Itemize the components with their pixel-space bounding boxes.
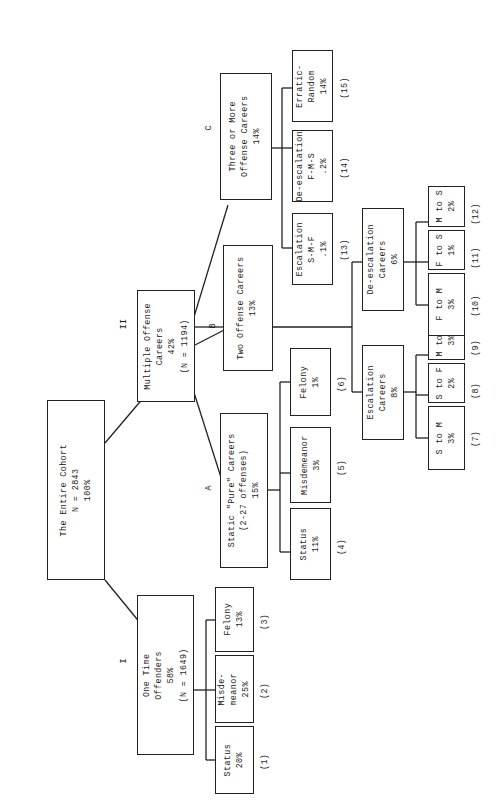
node-escalation-careers[interactable]: Escalation Careers 8%: [362, 345, 404, 440]
node-felony-6[interactable]: Felony 1%: [290, 348, 331, 416]
node-s-to-f-8-text: S to F 2%: [434, 367, 458, 400]
node-status-4-text: Status 11%: [298, 528, 322, 561]
node-f-to-s-11[interactable]: F to S 1%: [428, 230, 465, 270]
node-f-to-s-11-text: F to S 1%: [434, 234, 458, 267]
node-status-1-text: Status 20%: [222, 744, 246, 777]
node-s-to-m-7-text: S to M 3%: [434, 422, 458, 455]
node-three-or-more-offense-careers-text: Three or More Offense Careers 14%: [228, 96, 265, 177]
label-index-1: (1): [260, 752, 272, 772]
node-s-to-f-8[interactable]: S to F 2%: [428, 363, 465, 403]
node-felony-3[interactable]: Felony 13%: [215, 587, 254, 652]
label-index-11: (11): [471, 245, 483, 271]
diagram-canvas: The Entire Cohort N = 2843 100% One Time…: [0, 0, 496, 807]
node-one-time-offenders-text: One Time Offenders 58% (N = 1649): [141, 648, 190, 702]
label-branch-I: I: [119, 654, 131, 668]
label-index-4: (4): [337, 537, 349, 557]
label-branch-II: II: [119, 316, 131, 332]
node-two-offense-careers[interactable]: Two Offense Careers 13%: [223, 245, 273, 371]
node-multiple-offense-careers-text: Multiple Offense Careers 42% (N = 1194): [142, 303, 191, 390]
node-felony-3-text: Felony 13%: [222, 603, 246, 636]
label-index-8: (8): [471, 380, 483, 402]
node-root[interactable]: The Entire Cohort N = 2843 100%: [47, 400, 105, 580]
label-index-6: (6): [337, 374, 349, 394]
label-index-2: (2): [260, 681, 272, 701]
label-branch-B: B: [208, 319, 220, 333]
label-index-10: (10): [471, 293, 483, 319]
node-erratic-random-15[interactable]: Erratic- Random 14%: [292, 50, 333, 122]
node-root-text: The Entire Cohort N = 2843 100%: [58, 444, 95, 536]
node-m-to-s-12[interactable]: M to S 2%: [428, 186, 465, 227]
label-index-5: (5): [337, 458, 349, 478]
node-static-pure-careers[interactable]: Static "Pure" Careers (2-27 offenses) 15…: [220, 413, 268, 568]
node-erratic-random-15-text: Erratic- Random 14%: [294, 64, 331, 107]
node-misdemeanor-2-text: Misde- meanor 25%: [216, 673, 253, 706]
node-multiple-offense-careers[interactable]: Multiple Offense Careers 42% (N = 1194): [137, 290, 195, 402]
node-f-to-m-10-text: F to M 3%: [434, 288, 458, 321]
node-de-escalation-fms-14[interactable]: De-escalation F-M-S .2%: [292, 130, 333, 202]
label-index-9: (9): [471, 337, 483, 359]
label-index-7: (7): [471, 428, 483, 450]
node-two-offense-careers-text: Two Offense Careers 13%: [236, 256, 260, 359]
node-misdemeanor-5[interactable]: Misdemeanor 3%: [290, 427, 331, 503]
label-index-13: (13): [340, 238, 352, 262]
node-escalation-careers-text: Escalation Careers 8%: [365, 365, 402, 419]
node-three-or-more-offense-careers[interactable]: Three or More Offense Careers 14%: [220, 73, 272, 200]
node-escalation-smf-13-text: Escalation S-M-F .1%: [294, 222, 331, 276]
node-escalation-smf-13[interactable]: Escalation S-M-F .1%: [292, 213, 333, 285]
label-index-12: (12): [471, 201, 483, 227]
node-misdemeanor-2[interactable]: Misde- meanor 25%: [215, 655, 254, 723]
node-s-to-m-7[interactable]: S to M 3%: [428, 406, 465, 470]
node-felony-6-text: Felony 1%: [298, 366, 322, 399]
node-de-escalation-careers-text: De-escalation Careers 6%: [365, 224, 402, 295]
label-index-15: (15): [340, 76, 352, 100]
label-branch-C: C: [204, 121, 216, 135]
node-static-pure-careers-text: Static "Pure" Careers (2-27 offenses) 15…: [226, 434, 263, 548]
node-status-1[interactable]: Status 20%: [215, 726, 254, 794]
label-index-3: (3): [260, 612, 272, 632]
node-f-to-m-10[interactable]: F to M 3%: [428, 273, 465, 336]
node-misdemeanor-5-text: Misdemeanor 3%: [298, 435, 322, 495]
node-de-escalation-careers[interactable]: De-escalation Careers 6%: [362, 208, 404, 311]
label-index-14: (14): [340, 156, 352, 180]
node-one-time-offenders[interactable]: One Time Offenders 58% (N = 1649): [137, 595, 194, 755]
node-m-to-s-12-text: M to S 2%: [434, 190, 458, 223]
node-de-escalation-fms-14-text: De-escalation F-M-S .2%: [294, 131, 331, 202]
node-status-4[interactable]: Status 11%: [290, 508, 331, 580]
label-branch-A: A: [204, 481, 216, 495]
